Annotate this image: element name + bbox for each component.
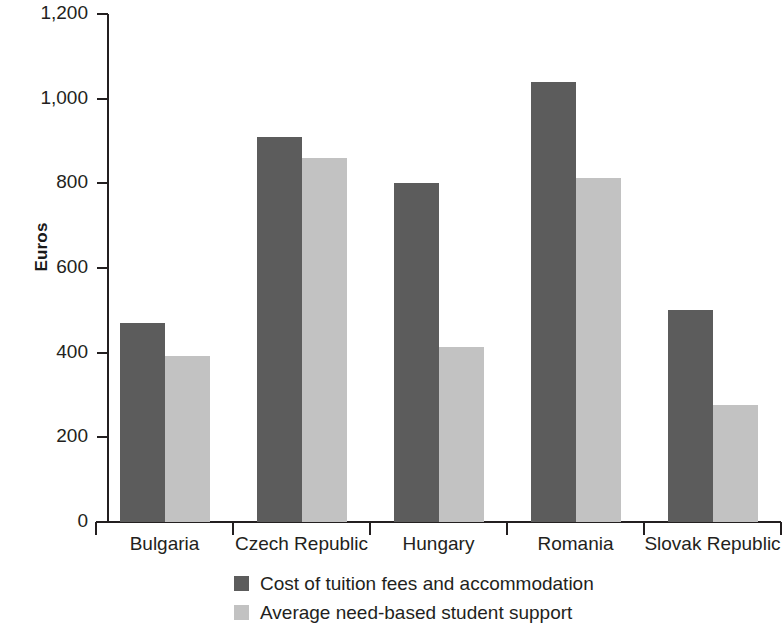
- bar: [668, 310, 713, 522]
- bar: [713, 405, 758, 522]
- y-axis-title: Euros: [32, 202, 52, 292]
- y-axis-tick-label: 1,200: [0, 3, 88, 22]
- y-axis-tick: [97, 13, 108, 15]
- plot-area: [108, 14, 781, 522]
- x-axis-category-label: Czech Republic: [233, 534, 370, 555]
- y-axis-tick-label: 1,000: [0, 88, 88, 107]
- y-axis-tick: [97, 521, 108, 523]
- y-axis-tick-label: 400: [0, 342, 88, 361]
- y-axis-tick-label: 200: [0, 426, 88, 445]
- bar: [120, 323, 165, 522]
- y-axis-tick: [97, 98, 108, 100]
- y-axis-tick: [97, 267, 108, 269]
- x-axis-category-label: Romania: [507, 534, 644, 555]
- bar: [576, 178, 621, 522]
- x-axis-category-label: Slovak Republic: [644, 534, 781, 555]
- bar: [302, 158, 347, 522]
- x-axis-category-label: Bulgaria: [96, 534, 233, 555]
- y-axis-tick-label: 800: [0, 172, 88, 191]
- bar: [394, 183, 439, 522]
- y-axis-tick-label: 0: [0, 511, 88, 530]
- legend-item-label: Cost of tuition fees and accommodation: [260, 574, 594, 593]
- bar: [257, 137, 302, 522]
- legend-item-label: Average need-based student support: [260, 603, 572, 622]
- legend-item: Cost of tuition fees and accommodation: [0, 569, 781, 598]
- y-axis-tick: [97, 182, 108, 184]
- y-axis-tick: [97, 436, 108, 438]
- bar: [531, 82, 576, 522]
- bar: [165, 356, 210, 522]
- chart-legend: Cost of tuition fees and accommodation A…: [0, 569, 781, 627]
- y-axis-tick-label: 600: [0, 257, 88, 276]
- legend-swatch-icon: [234, 605, 249, 620]
- legend-swatch-icon: [234, 576, 249, 591]
- legend-item: Average need-based student support: [0, 598, 781, 627]
- x-axis-category-label: Hungary: [370, 534, 507, 555]
- bar: [439, 347, 484, 522]
- y-axis-tick: [97, 352, 108, 354]
